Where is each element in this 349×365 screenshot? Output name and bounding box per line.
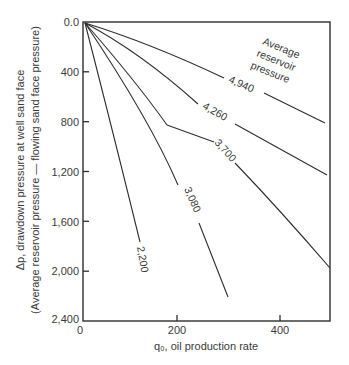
chart-canvas: 0.0 400 800 1,200 1,600 2,000 2,400 0 20… — [0, 0, 349, 365]
y-tick-label: 1,600 — [51, 216, 79, 228]
series-3080: 3,080 — [85, 23, 228, 297]
y-tick-label: 0.0 — [64, 16, 79, 28]
y-axis-title-line2: (Average reservoir pressure — flowing sa… — [29, 26, 41, 314]
curve-label: 4,260 — [201, 99, 230, 123]
y-tick-label: 800 — [61, 116, 79, 128]
series-2200: 2,200 — [85, 23, 151, 273]
x-tick-label: 200 — [168, 324, 186, 336]
curve-label: 3,700 — [213, 136, 240, 164]
x-axis: 0 200 400 — [77, 315, 289, 336]
curve-label: 4,940 — [227, 73, 256, 95]
curve-label: 3,080 — [182, 185, 204, 214]
y-axis-title-line1: Δp, drawdown pressure at well sand face — [14, 70, 26, 271]
x-axis-title: q₀, oil production rate — [154, 340, 258, 352]
x-tick-label: 0 — [77, 324, 83, 336]
legend-title: Average reservoir pressure — [249, 35, 302, 85]
curve-label: 2,200 — [135, 245, 151, 273]
x-tick-label: 400 — [271, 324, 289, 336]
y-tick-label: 2,400 — [51, 313, 79, 325]
y-tick-label: 1,200 — [51, 166, 79, 178]
y-tick-label: 400 — [61, 66, 79, 78]
y-tick-label: 2,000 — [51, 265, 79, 277]
